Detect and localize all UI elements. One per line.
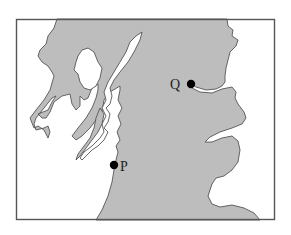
landmass (30, 19, 260, 220)
point-p-label: P (120, 159, 128, 174)
point-q-label: Q (170, 77, 180, 92)
point-p-marker (110, 161, 118, 169)
map-canvas: Q P (0, 0, 291, 235)
point-q-marker (187, 80, 195, 88)
